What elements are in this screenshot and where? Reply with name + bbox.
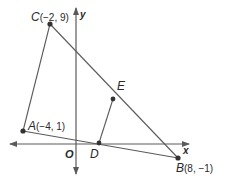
point-B-name: B [176, 161, 184, 175]
segment-CA [23, 24, 50, 131]
point-A-name: A [28, 119, 36, 133]
point-B-coords: (8, −1) [184, 163, 213, 174]
y-axis-label: y [80, 10, 86, 20]
coordinate-diagram: C(−2, 9) y A(−4, 1) O D E x B(8, −1) [0, 0, 229, 180]
point-A-coords: (−4, 1) [36, 121, 65, 132]
label-point-B: B(8, −1) [176, 159, 213, 175]
segment-CB [50, 24, 178, 158]
label-point-E: E [117, 80, 125, 92]
point-C-coords: (−2, 9) [40, 12, 69, 23]
label-point-A: A(−4, 1) [28, 117, 65, 133]
point-E [111, 97, 116, 102]
segment-DE [99, 99, 113, 143]
point-C-name: C [31, 10, 40, 24]
label-point-D: D [90, 148, 99, 160]
diagram-svg [0, 0, 229, 180]
point-D [97, 141, 102, 146]
x-axis-label: x [183, 146, 189, 156]
point-A [20, 128, 25, 133]
label-point-C: C(−2, 9) [31, 8, 69, 24]
origin-label: O [65, 149, 74, 160]
